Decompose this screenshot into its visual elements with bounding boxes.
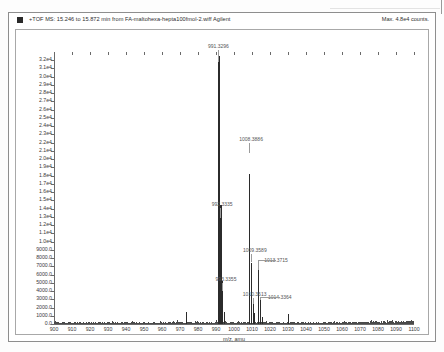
y-axis-tick-mark bbox=[51, 308, 54, 309]
x-axis-tick-label: 1020 bbox=[264, 327, 276, 332]
peak-annotation-leader bbox=[253, 298, 254, 304]
y-axis-tick-label: 6000.0 bbox=[36, 272, 52, 277]
spectrum-window: +TOF MS: 15.246 to 15.872 min from FA-ma… bbox=[8, 12, 436, 342]
y-axis-tick-mark bbox=[51, 299, 54, 300]
plot-area[interactable]: 0.01000.02000.03000.04000.05000.06000.07… bbox=[54, 52, 414, 324]
y-axis-tick-mark bbox=[51, 316, 54, 317]
x-axis-tick-label: 910 bbox=[68, 327, 77, 332]
x-axis-tick-label: 1030 bbox=[282, 327, 294, 332]
y-axis-tick-mark bbox=[51, 209, 54, 210]
x-axis-tick-mark bbox=[360, 52, 361, 55]
y-axis-tick-mark bbox=[51, 266, 54, 267]
x-axis-tick-label: 1080 bbox=[372, 327, 384, 332]
y-axis-tick-mark bbox=[51, 283, 54, 284]
y-axis-tick-mark bbox=[51, 159, 54, 160]
y-axis-tick-mark bbox=[51, 151, 54, 152]
peak-annotation-elbow bbox=[258, 260, 276, 261]
screenshot-root: +TOF MS: 15.246 to 15.872 min from FA-ma… bbox=[0, 0, 444, 352]
x-axis-tick-label: 1040 bbox=[300, 327, 312, 332]
y-axis-tick-label: 5000.0 bbox=[36, 280, 52, 285]
x-axis-tick-mark bbox=[378, 52, 379, 55]
spectrum-peak[interactable] bbox=[224, 312, 225, 324]
x-axis-tick-label: 950 bbox=[140, 327, 149, 332]
x-axis-tick-mark bbox=[162, 52, 163, 55]
x-axis-tick-mark bbox=[126, 52, 127, 55]
x-axis-tick-mark bbox=[288, 52, 289, 55]
y-axis-tick-mark bbox=[51, 93, 54, 94]
x-axis-tick-mark bbox=[198, 52, 199, 55]
x-axis-tick-mark bbox=[324, 52, 325, 55]
peak-annotation-elbow bbox=[260, 297, 280, 298]
peak-annotation-label: 992.3335 bbox=[212, 202, 233, 207]
peak-annotation-leader bbox=[258, 260, 259, 270]
spectrum-peak[interactable] bbox=[254, 313, 255, 324]
x-axis-tick-mark bbox=[396, 52, 397, 55]
x-axis-tick-label: 1000 bbox=[228, 327, 240, 332]
y-axis-tick-label: 1000.0 bbox=[36, 313, 52, 318]
y-axis-tick-mark bbox=[51, 184, 54, 185]
peak-annotation-label: 991.3296 bbox=[208, 44, 229, 49]
x-axis-tick-mark bbox=[90, 52, 91, 55]
y-axis-tick-label: 4000.0 bbox=[36, 288, 52, 293]
x-axis-tick-mark bbox=[414, 52, 415, 55]
peak-annotation-leader bbox=[249, 143, 250, 153]
x-axis-tick-mark bbox=[216, 52, 217, 55]
scan-artifact-top bbox=[330, 8, 440, 9]
y-axis-tick-mark bbox=[51, 118, 54, 119]
y-axis-tick-mark bbox=[51, 85, 54, 86]
x-axis-tick-mark bbox=[270, 52, 271, 55]
y-axis-tick-mark bbox=[51, 200, 54, 201]
x-axis-tick-label: 1100 bbox=[408, 327, 419, 332]
spectrum-header: +TOF MS: 15.246 to 15.872 min from FA-ma… bbox=[9, 13, 435, 27]
y-axis-tick-label: 3000.0 bbox=[36, 297, 52, 302]
y-axis-tick-mark bbox=[51, 167, 54, 168]
peak-annotation-label: 993.3355 bbox=[216, 277, 237, 282]
x-axis-tick-label: 1060 bbox=[336, 327, 348, 332]
spectrum-peak[interactable] bbox=[186, 312, 187, 324]
y-axis-tick-label: 8000.0 bbox=[36, 255, 52, 260]
peak-annotation-leader bbox=[218, 50, 219, 62]
y-axis-tick-mark bbox=[51, 250, 54, 251]
x-axis-tick-mark bbox=[252, 52, 253, 55]
y-axis-tick-mark bbox=[51, 143, 54, 144]
x-axis-tick-mark bbox=[72, 52, 73, 55]
y-axis-tick-mark bbox=[51, 110, 54, 111]
peak-annotation-leader bbox=[220, 208, 221, 218]
y-axis-tick-mark bbox=[51, 126, 54, 127]
x-axis-tick-mark bbox=[180, 52, 181, 55]
y-axis-tick-mark bbox=[51, 217, 54, 218]
peak-annotation-leader bbox=[222, 283, 223, 291]
x-axis-tick-mark bbox=[306, 52, 307, 55]
y-axis-tick-mark bbox=[51, 258, 54, 259]
x-axis-line bbox=[54, 324, 414, 325]
x-axis-tick-label: 930 bbox=[104, 327, 113, 332]
max-counts-label: Max. 4.8e4 counts. bbox=[382, 15, 429, 24]
y-axis-tick-label: 9000.0 bbox=[36, 247, 52, 252]
x-axis-tick-label: 960 bbox=[158, 327, 167, 332]
y-axis-tick-label: 7000.0 bbox=[36, 264, 52, 269]
y-axis-tick-label: 2000.0 bbox=[36, 305, 52, 310]
x-axis-tick-label: 940 bbox=[122, 327, 131, 332]
spectrum-peak[interactable] bbox=[262, 317, 263, 324]
y-axis-tick-mark bbox=[51, 101, 54, 102]
y-axis-tick-mark bbox=[51, 225, 54, 226]
x-axis-title: m/z, amu bbox=[54, 336, 414, 342]
y-axis-tick-mark bbox=[51, 233, 54, 234]
x-axis-tick-mark bbox=[234, 52, 235, 55]
y-axis-tick-mark bbox=[51, 68, 54, 69]
baseline-noise bbox=[413, 321, 414, 324]
peak-annotation-label: 1008.3886 bbox=[239, 137, 263, 142]
x-axis-tick-mark bbox=[144, 52, 145, 55]
y-axis-tick-mark bbox=[51, 291, 54, 292]
x-axis-tick-label: 900 bbox=[50, 327, 59, 332]
y-axis-tick-mark bbox=[51, 275, 54, 276]
x-axis-tick-mark bbox=[342, 52, 343, 55]
x-axis-tick-label: 970 bbox=[176, 327, 185, 332]
y-axis-tick-mark bbox=[51, 176, 54, 177]
x-axis-tick-label: 980 bbox=[194, 327, 203, 332]
filled-square-icon bbox=[17, 17, 23, 23]
plot-frame[interactable]: 0.01000.02000.03000.04000.05000.06000.07… bbox=[15, 29, 429, 335]
y-axis-tick-mark bbox=[51, 134, 54, 135]
x-axis-tick-mark bbox=[108, 52, 109, 55]
spectrum-peak[interactable] bbox=[288, 314, 289, 324]
